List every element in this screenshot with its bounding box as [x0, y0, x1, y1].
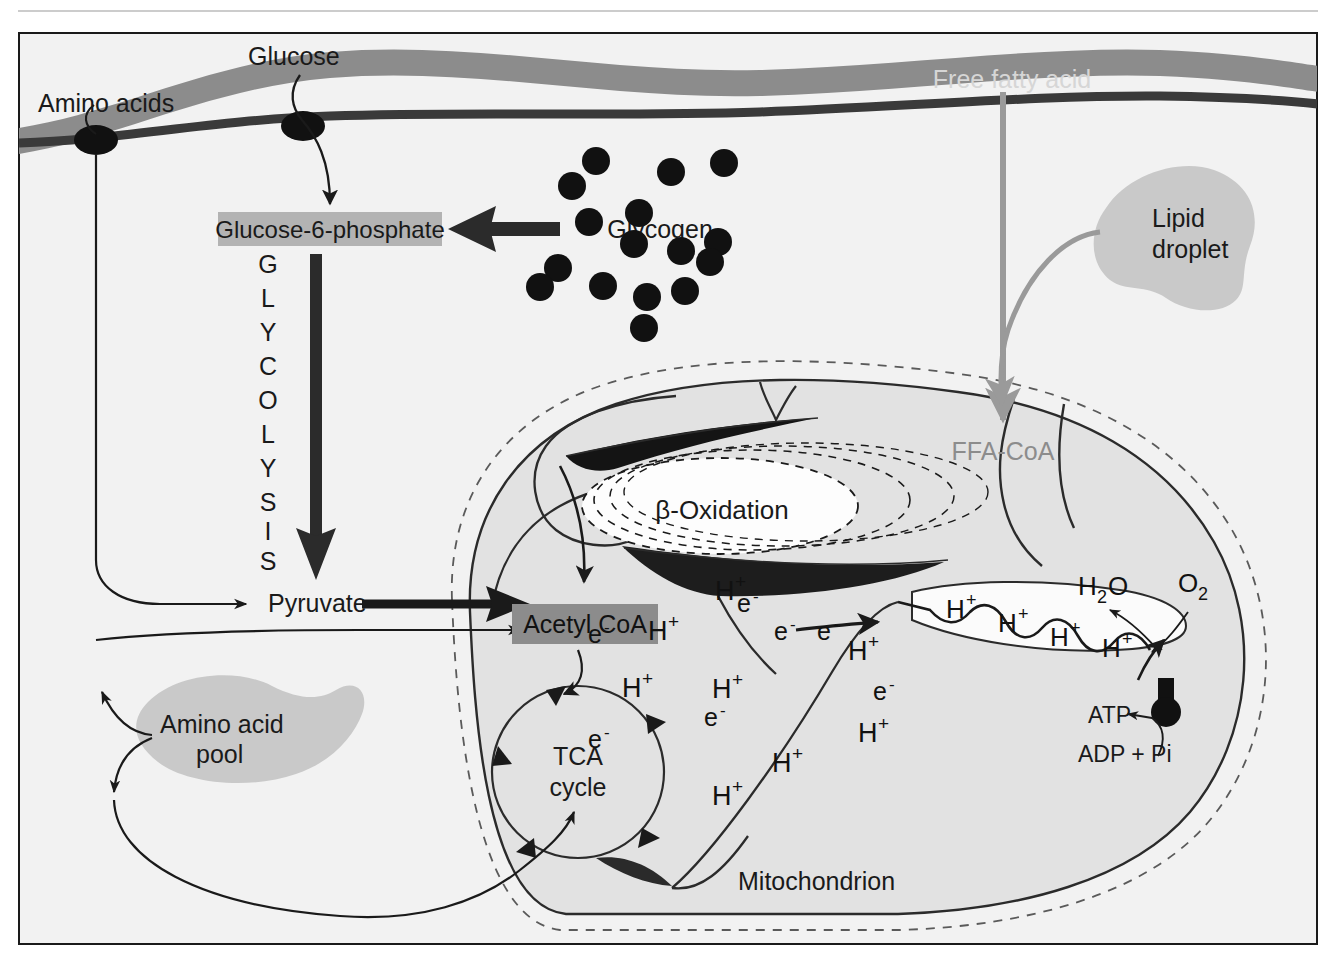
glycolysis-letter: S — [260, 547, 277, 575]
svg-text:e: e — [817, 617, 831, 645]
tca-cycle-label-line2: cycle — [550, 773, 607, 801]
glycogen-granule — [710, 149, 738, 177]
glycolysis-letter: S — [260, 488, 277, 516]
glucose-label: Glucose — [248, 42, 340, 70]
svg-text:-: - — [889, 675, 895, 694]
lipid-droplet-label-line1: Lipid — [1152, 204, 1205, 232]
atp-label: ATP — [1088, 702, 1131, 728]
glycogen-granule — [526, 273, 554, 301]
svg-text:H: H — [1050, 622, 1069, 652]
glycogen-granule — [667, 237, 695, 265]
svg-text:H: H — [622, 673, 642, 703]
svg-text:H: H — [946, 594, 965, 624]
svg-text:-: - — [604, 618, 610, 637]
svg-text:+: + — [732, 669, 743, 690]
svg-text:+: + — [642, 668, 653, 689]
glucose-transporter[interactable] — [281, 111, 325, 141]
glycogen-granule — [696, 248, 724, 276]
amino-acid-transporter[interactable] — [74, 125, 118, 155]
svg-text:-: - — [720, 701, 726, 720]
svg-text:H: H — [1102, 633, 1121, 663]
glycolysis-letter: I — [265, 517, 272, 545]
svg-text:-: - — [604, 723, 610, 742]
free-fatty-acid-label: Free fatty acid — [933, 65, 1091, 93]
svg-text:O: O — [1108, 571, 1128, 601]
glycogen-granule — [625, 199, 653, 227]
beta-oxidation-label: β-Oxidation — [655, 495, 788, 525]
svg-text:-: - — [790, 615, 796, 634]
figure-canvas: β-Oxidation TCA cycle — [0, 0, 1336, 970]
ffa-coa-label: FFA-CoA — [952, 437, 1055, 465]
glycolysis-letter: O — [258, 386, 277, 414]
glycogen-granule — [671, 277, 699, 305]
glycogen-granule — [582, 147, 610, 175]
glycogen-granule — [633, 283, 661, 311]
amino-acid-pool-label-line2: pool — [196, 740, 243, 768]
svg-text:H: H — [712, 781, 732, 811]
glycogen-granule — [558, 172, 586, 200]
svg-text:+: + — [668, 611, 679, 632]
svg-text:e: e — [588, 725, 602, 753]
svg-text:H: H — [715, 576, 735, 606]
glycolysis-letter: L — [261, 284, 275, 312]
svg-text:+: + — [868, 631, 879, 652]
svg-text:H: H — [648, 616, 668, 646]
acetyl-coa-label: Acetyl CoA — [523, 610, 647, 638]
svg-text:H: H — [848, 636, 868, 666]
svg-text:H: H — [712, 674, 732, 704]
svg-text:+: + — [878, 713, 889, 734]
svg-text:+: + — [966, 590, 977, 610]
glycogen-granule — [589, 272, 617, 300]
lipid-droplet-label-line2: droplet — [1152, 235, 1228, 263]
svg-text:e: e — [737, 589, 751, 617]
svg-text:e: e — [588, 620, 602, 648]
glycogen-granule — [620, 230, 648, 258]
svg-text:+: + — [792, 743, 803, 764]
amino-acid-pool-label-line1: Amino acid — [160, 710, 284, 738]
glycolysis-letter: G — [258, 250, 277, 278]
glycogen-granule — [575, 208, 603, 236]
svg-text:+: + — [1070, 618, 1081, 638]
adp-pi-label: ADP + Pi — [1078, 741, 1172, 767]
svg-text:H: H — [772, 748, 792, 778]
svg-text:2: 2 — [1097, 587, 1107, 607]
pyruvate-label: Pyruvate — [268, 589, 367, 617]
svg-text:+: + — [1018, 604, 1029, 624]
glycolysis-letter: Y — [260, 318, 277, 346]
svg-text:e: e — [704, 703, 718, 731]
svg-text:O: O — [1178, 568, 1198, 598]
svg-text:H: H — [998, 608, 1017, 638]
glucose6phosphate-label: Glucose-6-phosphate — [215, 216, 444, 243]
glycogen-granule — [630, 314, 658, 342]
atp-synthase-head — [1151, 697, 1181, 727]
glycolysis-letter: Y — [260, 454, 277, 482]
glycolysis-letter: L — [261, 420, 275, 448]
amino-acids-label: Amino acids — [38, 89, 174, 117]
glycogen-granule — [657, 158, 685, 186]
svg-text:2: 2 — [1198, 584, 1208, 604]
svg-text:+: + — [1122, 629, 1133, 649]
svg-text:e: e — [774, 617, 788, 645]
svg-text:H: H — [1078, 571, 1097, 601]
svg-text:+: + — [732, 776, 743, 797]
svg-text:-: - — [753, 587, 759, 606]
mitochondrion-label: Mitochondrion — [738, 867, 895, 895]
svg-text:e: e — [873, 677, 887, 705]
svg-text:H: H — [858, 718, 878, 748]
svg-text:-: - — [833, 615, 839, 634]
glycolysis-letter: C — [259, 352, 277, 380]
